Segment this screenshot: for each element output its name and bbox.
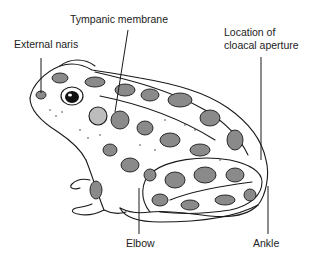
label-tympanic-membrane: Tympanic membrane — [70, 13, 168, 25]
label-elbow: Elbow — [126, 237, 155, 249]
label-cloaca-line1: Location of — [224, 26, 275, 38]
frog-diagram: Tympanic membrane External naris Locatio… — [0, 0, 315, 266]
tympanic-leader — [115, 30, 128, 112]
label-cloaca-line2: cloacal aperture — [224, 39, 299, 51]
label-external-naris: External naris — [14, 38, 78, 50]
label-ankle: Ankle — [253, 237, 279, 249]
